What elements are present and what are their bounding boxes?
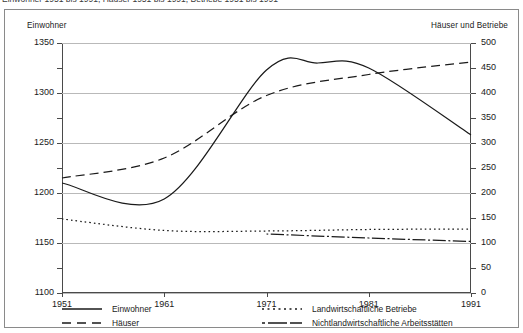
y-axis-right-label: 300 xyxy=(481,138,521,147)
legend-row-2: Häuser Nichtlandwirtschaftliche Arbeitss… xyxy=(62,316,502,330)
y-axis-left-label: 1250 xyxy=(14,138,54,147)
y-axis-right-label: 150 xyxy=(481,213,521,222)
y-axis-right-tick xyxy=(471,68,476,69)
y-axis-right-tick xyxy=(471,168,476,169)
plot-area: 135013001250120011501100 500450400350300… xyxy=(62,43,471,293)
chart-figure: Einwohner 1951 bis 1991, Häuser 1951 bis… xyxy=(0,0,523,333)
legend-item-haeuser: Häuser xyxy=(62,318,262,328)
x-axis-tick xyxy=(267,293,268,297)
y-axis-right-label: 200 xyxy=(481,188,521,197)
y-axis-right-label: 0 xyxy=(481,288,521,297)
y-axis-right-tick xyxy=(471,43,476,44)
left-axis-title: Einwohner xyxy=(27,21,67,30)
y-axis-right-tick xyxy=(471,243,476,244)
series-line-solid xyxy=(62,58,471,205)
y-axis-right-label: 350 xyxy=(481,113,521,122)
series-line-dotted xyxy=(62,219,471,232)
x-axis-tick xyxy=(369,293,370,297)
legend-label-landwirtschaftliche-betriebe: Landwirtschaftliche Betriebe xyxy=(312,304,417,314)
y-axis-left-label: 1300 xyxy=(14,88,54,97)
series-layer xyxy=(62,43,471,293)
x-axis-tick xyxy=(62,293,63,297)
y-axis-right-label: 50 xyxy=(481,263,521,272)
legend-item-einwohner: Einwohner xyxy=(62,304,262,314)
y-axis-right-tick xyxy=(471,193,476,194)
y-axis-right-label: 250 xyxy=(481,163,521,172)
legend-swatch-dotted xyxy=(262,304,302,314)
y-axis-right-label: 450 xyxy=(481,63,521,72)
legend-row-1: Einwohner Landwirtschaftliche Betriebe xyxy=(62,302,502,316)
legend-swatch-solid xyxy=(62,304,102,314)
y-axis-right-tick xyxy=(471,118,476,119)
series-line-dashed xyxy=(62,62,471,178)
legend-label-haeuser: Häuser xyxy=(112,318,139,328)
y-axis-left-label: 1350 xyxy=(14,38,54,47)
y-axis-right-label: 100 xyxy=(481,238,521,247)
legend-swatch-dashdot xyxy=(262,318,302,328)
series-line-dashdot xyxy=(267,234,472,242)
y-axis-right-tick xyxy=(471,268,476,269)
y-axis-right-tick xyxy=(471,218,476,219)
y-axis-left-label: 1200 xyxy=(14,188,54,197)
y-axis-left-label: 1150 xyxy=(14,238,54,247)
y-axis-left-label: 1100 xyxy=(14,288,54,297)
y-axis-right-tick xyxy=(471,143,476,144)
caption-text: Einwohner 1951 bis 1991, Häuser 1951 bis… xyxy=(2,0,278,4)
legend-item-landwirtschaftliche-betriebe: Landwirtschaftliche Betriebe xyxy=(262,304,502,314)
x-axis-tick xyxy=(164,293,165,297)
right-axis-title: Häuser und Betriebe xyxy=(431,21,508,30)
legend-label-nichtlandwirtschaftliche-arbeitsstaetten: Nichtlandwirtschaftliche Arbeitsstätten xyxy=(312,318,453,328)
chart-frame: Einwohner Häuser und Betriebe 1350130012… xyxy=(4,9,519,328)
chart-legend: Einwohner Landwirtschaftliche Betriebe H… xyxy=(62,302,502,330)
y-axis-right-label: 400 xyxy=(481,88,521,97)
y-axis-right-tick xyxy=(471,93,476,94)
legend-label-einwohner: Einwohner xyxy=(112,304,152,314)
legend-item-nichtlandwirtschaftliche-arbeitsstaetten: Nichtlandwirtschaftliche Arbeitsstätten xyxy=(262,318,502,328)
clipped-caption: Einwohner 1951 bis 1991, Häuser 1951 bis… xyxy=(0,0,523,9)
legend-swatch-dashed xyxy=(62,318,102,328)
x-axis-tick xyxy=(471,293,472,297)
y-axis-right-label: 500 xyxy=(481,38,521,47)
